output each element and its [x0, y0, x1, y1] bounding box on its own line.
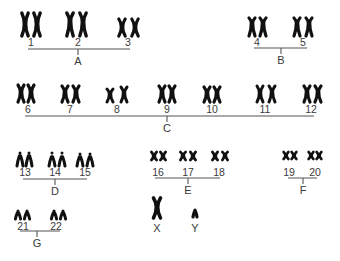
chromosome-22-a: [51, 210, 56, 220]
chromosome-pair-8: [107, 87, 127, 102]
chromosome-number-1: 1: [28, 36, 34, 48]
chromosome-number-22: 22: [50, 220, 62, 232]
group-f: 19 20 F: [283, 152, 321, 196]
chromosome-pair-19: [284, 152, 297, 159]
chromosome-17-a: [180, 152, 185, 160]
chromosome-pair-21: [15, 210, 29, 220]
chromosome-20-a: [309, 152, 314, 159]
chromosome-15-b: [87, 153, 93, 167]
chromosome-16-a: [151, 152, 156, 160]
group-c: 6 7 8 9 10 11 12 C: [18, 85, 321, 134]
chromosome-number-3: 3: [125, 36, 131, 48]
chromosome-pair-5: [294, 18, 312, 36]
chromosome-pair-11: [257, 86, 275, 102]
chromosome-number-19: 19: [283, 166, 295, 178]
chromosome-5-a: [294, 18, 300, 36]
chromosome-pair-22: [51, 210, 65, 220]
chromosome-label-x: X: [153, 222, 161, 234]
chromosome-number-14: 14: [49, 166, 61, 178]
chromosome-17-b: [190, 152, 195, 160]
karyotype-diagram: 1 2 3 A 4 5 B: [0, 0, 340, 261]
chromosome-21-a: [15, 210, 20, 220]
chromosome-4-b: [260, 18, 266, 36]
chromosome-number-7: 7: [67, 103, 73, 115]
chromosome-number-9: 9: [164, 103, 170, 115]
chromosome-10-a: [204, 87, 210, 102]
chromosome-pair-14: [49, 152, 65, 167]
chromosome-pair-2: [67, 13, 86, 36]
chromosome-7-b: [73, 86, 79, 102]
group-label-c: C: [163, 122, 171, 134]
chromosome-number-13: 13: [19, 166, 31, 178]
chromosome-number-16: 16: [152, 166, 164, 178]
chromosome-15-a: [77, 153, 83, 167]
chromosome-14-a: [49, 152, 55, 167]
group-a: 1 2 3 A: [22, 13, 138, 67]
chromosome-1-b: [34, 13, 40, 36]
chromosome-6-b: [28, 85, 34, 102]
chromosome-pair-7: [62, 86, 79, 102]
chromosome-5-b: [306, 18, 312, 36]
chromosome-1-a: [22, 13, 28, 36]
chromosome-19-b: [292, 152, 297, 159]
chromosome-20-b: [317, 152, 322, 159]
chromosome-number-8: 8: [114, 103, 120, 115]
group-label-b: B: [277, 54, 284, 66]
chromosome-8-b: [121, 87, 127, 102]
chromosome-8-a: [107, 89, 113, 102]
chromosome-9-b: [169, 86, 175, 102]
chromosome-2-a: [67, 13, 73, 36]
chromosome-9-a: [159, 86, 165, 102]
chromosome-number-20: 20: [309, 166, 321, 178]
chromosome-13-b: [26, 152, 32, 167]
chromosome-number-4: 4: [254, 36, 260, 48]
chromosome-pair-6: [18, 85, 34, 102]
chromosome-21-b: [24, 210, 29, 220]
chromosome-10-b: [214, 87, 220, 102]
chromosome-number-11: 11: [260, 103, 271, 115]
group-d: 13 14 15 D: [17, 152, 93, 197]
chromosome-pair-9: [159, 86, 175, 102]
chromosome-pair-4: [249, 18, 266, 36]
chromosome-number-15: 15: [79, 166, 91, 178]
chromosome-number-12: 12: [305, 103, 317, 115]
chromosome-pair-20: [309, 152, 322, 159]
chromosome-pair-17: [180, 152, 195, 160]
group-label-e: E: [184, 184, 191, 196]
sex-chromosomes: X Y: [153, 198, 199, 234]
group-e: 16 17 18 E: [151, 152, 227, 196]
chromosome-number-5: 5: [300, 36, 306, 48]
chromosome-number-2: 2: [75, 36, 81, 48]
chromosome-pair-10: [204, 87, 220, 102]
chromosome-pair-3: [119, 19, 138, 36]
chromosome-19-a: [284, 152, 289, 159]
chromosome-12-b: [315, 86, 321, 102]
group-label-a: A: [74, 55, 82, 67]
chromosome-16-b: [160, 152, 165, 160]
chromosome-y: [193, 208, 197, 217]
chromosome-4-a: [249, 18, 255, 36]
chromosome-pair-12: [304, 86, 321, 102]
chromosome-12-a: [304, 86, 310, 102]
chromosome-pair-18: [212, 152, 227, 160]
chromosome-6-a: [18, 85, 24, 102]
chromosome-pair-13: [17, 152, 32, 167]
chromosome-18-a: [212, 152, 217, 160]
chromosome-number-10: 10: [206, 103, 218, 115]
group-label-d: D: [51, 185, 59, 197]
chromosome-x: [154, 198, 161, 218]
chromosome-pair-15: [77, 153, 93, 167]
chromosome-2-b: [80, 13, 86, 36]
group-b: 4 5 B: [249, 18, 312, 66]
chromosome-number-6: 6: [25, 103, 31, 115]
group-label-f: F: [300, 184, 307, 196]
chromosome-label-y: Y: [191, 222, 199, 234]
chromosome-11-b: [269, 86, 275, 102]
chromosome-7-a: [62, 86, 68, 102]
chromosome-11-a: [257, 86, 263, 102]
chromosome-3-b: [132, 19, 138, 36]
chromosome-pair-1: [22, 13, 40, 36]
chromosome-number-21: 21: [17, 220, 29, 232]
group-g: 21 22 G: [15, 210, 65, 249]
group-label-g: G: [33, 237, 42, 249]
